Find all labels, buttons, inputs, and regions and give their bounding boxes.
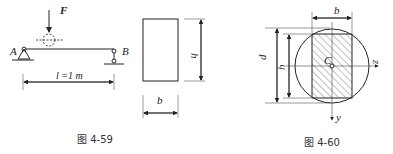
beam-diagram: F A B l =1 m bbox=[9, 4, 129, 90]
roller-support-b bbox=[112, 59, 116, 63]
figures-canvas: F A B l =1 m b h 图 4-59 bbox=[0, 0, 393, 154]
span-label: l =1 m bbox=[56, 70, 83, 81]
section-b-label: b bbox=[157, 94, 163, 106]
support-b-label: B bbox=[122, 45, 129, 57]
diameter-d-label: d bbox=[256, 54, 268, 60]
z-axis-label: z bbox=[371, 59, 383, 65]
y-axis-label: y bbox=[335, 111, 341, 123]
width-b-label: b bbox=[334, 4, 340, 16]
support-a-label: A bbox=[9, 45, 17, 57]
centroid-label: C bbox=[324, 54, 332, 66]
section-h-label: h bbox=[189, 53, 201, 59]
force-label: F bbox=[59, 4, 68, 16]
rect-section: b h bbox=[143, 19, 205, 118]
caption-4-59: 图 4-59 bbox=[77, 134, 113, 145]
caption-4-60: 图 4-60 bbox=[304, 137, 340, 148]
height-h-label: h bbox=[275, 64, 287, 70]
circle-section: b d h C z y bbox=[256, 4, 383, 123]
